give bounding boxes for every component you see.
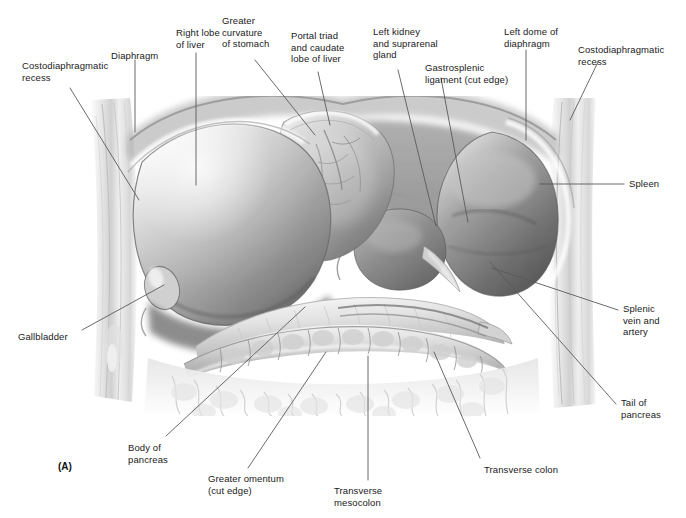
anatomy-drawing: [88, 96, 598, 416]
label-costodiaphragmatic-recess-left: Costodiaphragmatic recess: [22, 60, 108, 83]
label-greater-omentum-cut-edge: Greater omentum (cut edge): [208, 473, 284, 496]
label-spleen: Spleen: [629, 178, 659, 190]
label-portal-triad-caudate-lobe: Portal triad and caudate lobe of liver: [291, 30, 344, 65]
figure-letter: (A): [58, 461, 72, 472]
label-gastrosplenic-ligament: Gastrosplenic ligament (cut edge): [425, 62, 508, 85]
label-greater-curvature-of-stomach: Greater curvature of stomach: [222, 15, 269, 50]
label-left-dome-of-diaphragm: Left dome of diaphragm: [504, 26, 558, 49]
label-left-kidney-suprarenal-gland: Left kidney and suprarenal gland: [373, 26, 438, 61]
label-right-lobe-of-liver: Right lobe of liver: [176, 27, 220, 50]
label-transverse-colon: Transverse colon: [484, 464, 558, 476]
label-splenic-vein-and-artery: Splenic vein and artery: [623, 303, 660, 338]
label-costodiaphragmatic-recess-right: Costodiaphragmatic recess: [578, 44, 664, 67]
label-transverse-mesocolon: Transverse mesocolon: [334, 485, 382, 508]
illustration-canvas: ZN: [88, 96, 598, 416]
label-tail-of-pancreas: Tail of pancreas: [621, 397, 661, 420]
anatomical-figure: ZN Costodiaphragmatic recessDiaphragmRig…: [0, 0, 686, 518]
label-diaphragm: Diaphragm: [111, 50, 158, 62]
label-body-of-pancreas: Body of pancreas: [128, 442, 168, 465]
label-gallbladder: Gallbladder: [18, 331, 68, 343]
